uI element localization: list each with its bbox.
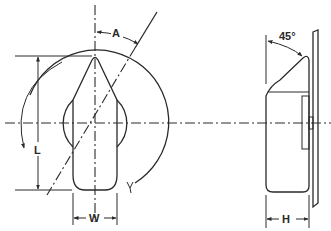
angle-line-lower xyxy=(47,48,135,195)
w-label: W xyxy=(89,212,100,224)
rotation-stop-mark xyxy=(127,182,133,193)
angle-a-label: A xyxy=(112,27,120,39)
knob-drawing: A L W 45° H xyxy=(0,0,331,231)
side-knob-body xyxy=(266,56,309,192)
angle-45-label: 45° xyxy=(279,30,296,42)
mounting-plate xyxy=(313,30,318,207)
outer-circle xyxy=(30,50,169,183)
angle-line-upper xyxy=(135,12,157,48)
side-view: 45° H xyxy=(266,30,318,228)
angle-45-arc xyxy=(268,41,302,56)
l-label: L xyxy=(34,144,41,156)
h-label: H xyxy=(282,213,290,225)
